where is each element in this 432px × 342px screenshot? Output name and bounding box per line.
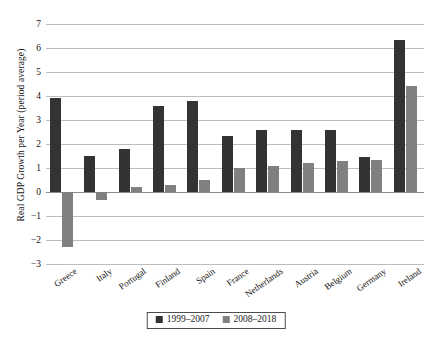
bar xyxy=(84,156,95,192)
bar-group xyxy=(115,24,149,264)
plot-area: 76543210−1−2−3 xyxy=(46,24,424,264)
bar xyxy=(256,130,267,192)
gridline--3: −3 xyxy=(46,264,424,265)
bar-group xyxy=(183,24,217,264)
x-axis-label: Portugal xyxy=(117,266,148,292)
y-tick-label: 5 xyxy=(36,67,41,77)
y-tick-label: −2 xyxy=(31,235,41,245)
bar xyxy=(268,166,279,192)
x-axis-label: Germany xyxy=(355,266,388,293)
y-tick-label: 1 xyxy=(36,163,41,173)
bar xyxy=(96,192,107,200)
bar xyxy=(303,163,314,192)
bar xyxy=(165,185,176,192)
bar xyxy=(371,160,382,192)
bar xyxy=(222,136,233,192)
bar-group xyxy=(321,24,355,264)
x-axis-label: Netherlands xyxy=(244,266,285,299)
y-axis-title: Real GDP Growth per Year (period average… xyxy=(16,10,26,260)
y-tick-label: 3 xyxy=(36,115,41,125)
x-axis-labels: GreeceItalyPortugalFinlandSpainFranceNet… xyxy=(46,266,424,312)
bar xyxy=(50,98,61,192)
legend-entry: 2008–2018 xyxy=(223,315,277,325)
y-tick-label: 2 xyxy=(36,139,41,149)
bar xyxy=(406,86,417,192)
bar xyxy=(62,192,73,247)
bar-group xyxy=(149,24,183,264)
x-axis-label: Spain xyxy=(194,266,217,286)
y-tick-label: −1 xyxy=(31,211,41,221)
x-axis-label: Ireland xyxy=(396,266,423,289)
legend-entry: 1999–2007 xyxy=(156,315,210,325)
gdp-growth-bar-chart: Real GDP Growth per Year (period average… xyxy=(0,0,432,342)
x-axis-label: Italy xyxy=(94,266,113,284)
bar-group xyxy=(46,24,80,264)
bar xyxy=(187,101,198,192)
legend-label: 2008–2018 xyxy=(234,315,277,325)
y-tick-label: 7 xyxy=(36,19,41,29)
x-axis-label: Finland xyxy=(154,266,182,290)
bar-group xyxy=(287,24,321,264)
bar xyxy=(234,168,245,192)
x-axis-label: Greece xyxy=(52,266,79,289)
bar xyxy=(359,157,370,192)
bar xyxy=(119,149,130,192)
bar xyxy=(291,130,302,192)
bar xyxy=(337,161,348,192)
legend-label: 1999–2007 xyxy=(167,315,210,325)
bar-group xyxy=(390,24,424,264)
legend: 1999–20072008–2018 xyxy=(147,312,286,329)
bar-group xyxy=(218,24,252,264)
bar-group xyxy=(80,24,114,264)
bars-layer xyxy=(46,24,424,264)
x-axis-label: France xyxy=(225,266,251,288)
bar-group xyxy=(355,24,389,264)
y-tick-label: 4 xyxy=(36,91,41,101)
x-axis-label: Austria xyxy=(292,266,319,289)
y-tick-label: −3 xyxy=(31,259,41,269)
y-tick-label: 6 xyxy=(36,43,41,53)
bar xyxy=(394,40,405,192)
bar xyxy=(153,106,164,192)
bar xyxy=(325,130,336,192)
legend-swatch-icon xyxy=(223,316,230,323)
bar-group xyxy=(252,24,286,264)
bar xyxy=(199,180,210,192)
x-axis-label: Belgium xyxy=(323,266,354,292)
legend-swatch-icon xyxy=(156,316,163,323)
y-tick-label: 0 xyxy=(36,187,41,197)
bar xyxy=(131,187,142,192)
